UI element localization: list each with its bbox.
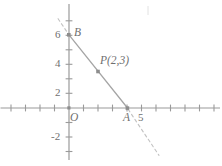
- x-tick-label-5: 5: [138, 112, 144, 123]
- point-a-label: A: [123, 112, 130, 124]
- origin-label: O: [70, 112, 78, 124]
- point-a-marker: [126, 106, 130, 110]
- figure-canvas: [0, 0, 222, 166]
- point-b-label: B: [74, 27, 81, 39]
- y-tick-label-2: 2: [55, 87, 61, 98]
- y-tick-label-4: 4: [55, 58, 61, 69]
- y-tick-label-minus-2: -2: [51, 131, 60, 142]
- coordinate-plane-figure: 6 4 2 -2 5 O B P(2,3) A: [0, 0, 222, 166]
- origin-marker: [67, 106, 70, 109]
- y-tick-label-6: 6: [55, 29, 61, 40]
- point-p-label: P(2,3): [100, 55, 129, 67]
- point-p-marker: [96, 70, 100, 74]
- point-b-marker: [67, 33, 71, 37]
